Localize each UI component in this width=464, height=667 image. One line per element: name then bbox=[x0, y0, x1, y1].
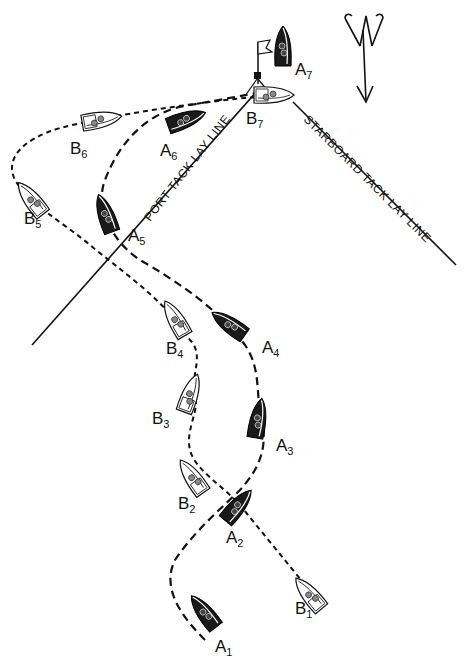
label-a6: A6 bbox=[160, 141, 177, 162]
wind-direction-arrow-icon bbox=[345, 14, 383, 102]
boat-b2 bbox=[174, 455, 210, 497]
boat-b3 bbox=[176, 372, 205, 415]
label-a3: A3 bbox=[276, 436, 293, 457]
boat-a4 bbox=[207, 306, 249, 342]
boat-a6 bbox=[165, 105, 208, 134]
label-a2: A2 bbox=[226, 528, 243, 549]
boat-b6 bbox=[81, 108, 123, 131]
boat-a3 bbox=[247, 397, 270, 439]
label-a5: A5 bbox=[128, 226, 145, 247]
label-a7: A7 bbox=[295, 60, 312, 81]
label-b7: B7 bbox=[246, 109, 263, 130]
label-b2: B2 bbox=[178, 494, 195, 515]
label-b4: B4 bbox=[166, 339, 183, 360]
label-a1: A1 bbox=[215, 637, 232, 658]
tacking-diagram: PORT TACK LAY LINE STARBOARD TACK LAY LI… bbox=[0, 0, 464, 667]
boat-b4 bbox=[158, 297, 192, 340]
label-a4: A4 bbox=[262, 338, 279, 359]
starboard-tack-lay-line-label: STARBOARD TACK LAY LINE bbox=[301, 112, 434, 245]
boat-b7 bbox=[254, 87, 294, 103]
label-b6: B6 bbox=[70, 139, 87, 160]
port-tack-lay-line-label: PORT TACK LAY LINE bbox=[141, 112, 233, 224]
boat-a7 bbox=[275, 26, 291, 66]
label-b3: B3 bbox=[152, 409, 169, 430]
boat-a5 bbox=[91, 192, 120, 235]
